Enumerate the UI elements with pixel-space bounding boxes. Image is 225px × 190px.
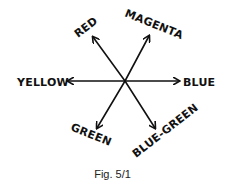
label-blue: BLUE <box>183 76 215 89</box>
diagram-canvas: RED MAGENTA YELLOW BLUE GREEN BLUE-GREEN <box>0 0 225 190</box>
arrow-blue-green <box>125 81 155 128</box>
arrow-green <box>97 81 125 128</box>
color-wheel-diagram: RED MAGENTA YELLOW BLUE GREEN BLUE-GREEN… <box>0 0 225 190</box>
label-yellow: YELLOW <box>16 76 69 89</box>
figure-caption: Fig. 5/1 <box>0 168 225 180</box>
label-green: GREEN <box>69 121 113 149</box>
label-magenta: MAGENTA <box>123 7 185 42</box>
arrow-magenta <box>125 36 149 81</box>
label-blue-green: BLUE-GREEN <box>130 101 201 160</box>
label-red: RED <box>72 14 100 40</box>
arrow-red <box>93 37 125 81</box>
